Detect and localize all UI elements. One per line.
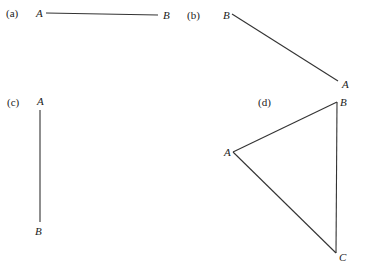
point-label-a: A	[35, 7, 43, 19]
segments-diagram: (a) A B (b) B A (c) A B (d) B A C	[0, 0, 365, 268]
segment-ab	[233, 102, 337, 152]
point-label-a: A	[341, 78, 349, 90]
point-label-a: A	[36, 95, 44, 107]
point-label-b: B	[163, 9, 170, 21]
point-label-b: B	[35, 225, 42, 237]
panel-label: (a)	[6, 7, 19, 20]
panel-d: (d) B A C	[223, 96, 347, 263]
point-label-a: A	[223, 146, 231, 158]
segment-ac	[233, 152, 336, 253]
panel-c: (c) A B	[7, 95, 44, 237]
panel-a: (a) A B	[6, 7, 170, 21]
panel-label: (d)	[258, 96, 271, 109]
panel-label: (c)	[7, 96, 20, 109]
segment-bc	[336, 102, 337, 253]
segment-ba	[232, 14, 338, 81]
panel-label: (b)	[187, 9, 200, 22]
point-label-b: B	[340, 96, 347, 108]
point-label-b: B	[223, 9, 230, 21]
panel-b: (b) B A	[187, 9, 349, 90]
segment-ab	[46, 13, 158, 15]
point-label-c: C	[339, 251, 347, 263]
